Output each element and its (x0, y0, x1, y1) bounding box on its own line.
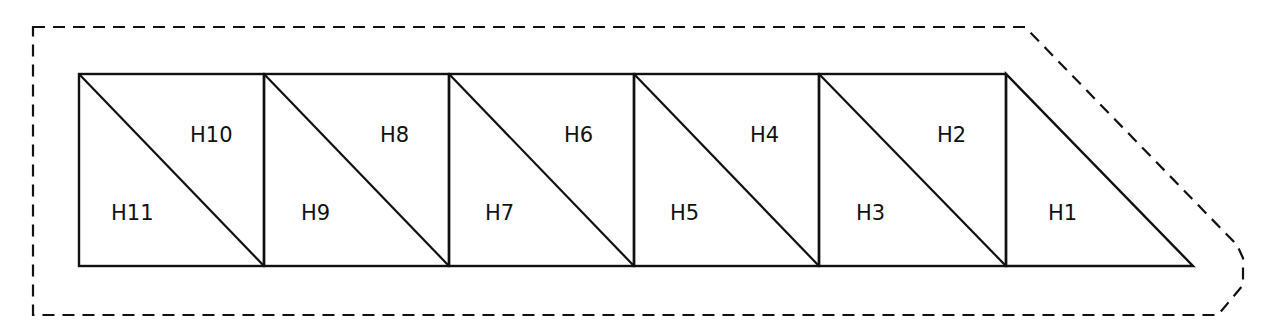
section-strip (79, 74, 1193, 266)
section-label-h9: H9 (301, 201, 330, 225)
section-cell-diagonal-4 (634, 74, 819, 266)
dashed-boundary-outline (33, 27, 1243, 315)
section-label-h4: H4 (750, 123, 779, 147)
end-triangle-section (1006, 74, 1193, 266)
hull-sections-diagram: H10H11H8H9H6H7H4H5H2H3H1 (0, 0, 1277, 332)
section-label-h2: H2 (937, 123, 966, 147)
section-cell-diagonal-2 (264, 74, 449, 266)
section-label-h8: H8 (380, 123, 409, 147)
section-label-h3: H3 (856, 201, 885, 225)
section-cell-diagonal-5 (819, 74, 1006, 266)
section-label-h10: H10 (190, 123, 233, 147)
section-label-h1: H1 (1048, 201, 1077, 225)
section-label-h6: H6 (564, 123, 593, 147)
section-labels: H10H11H8H9H6H7H4H5H2H3H1 (111, 123, 1077, 225)
section-label-h5: H5 (670, 201, 699, 225)
section-cell-diagonal-3 (449, 74, 634, 266)
section-label-h7: H7 (485, 201, 514, 225)
section-label-h11: H11 (111, 201, 154, 225)
section-cell-diagonal-1 (79, 74, 264, 266)
